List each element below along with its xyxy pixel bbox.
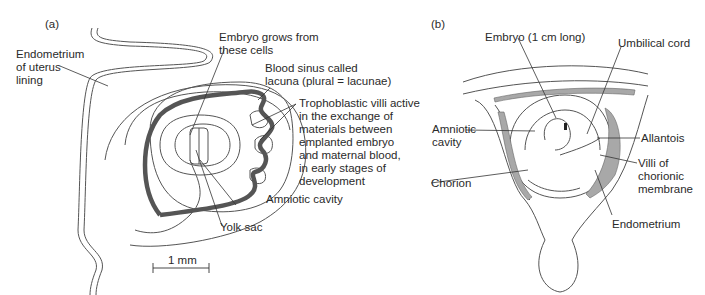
label-endometrium-a: Endometrium of uterus lining xyxy=(16,48,84,87)
panel-a-tag: (a) xyxy=(45,18,59,31)
label-trophoblastic-villi: Trophoblastic villi active in the exchan… xyxy=(299,97,420,188)
label-yolk-sac: Yolk sac xyxy=(220,221,262,234)
label-blood-sinus: Blood sinus called lacuna (plural = lacu… xyxy=(265,62,391,88)
label-amniotic-cavity-b: Amniotic cavity xyxy=(432,123,476,149)
trophoblast-line xyxy=(145,92,272,215)
scale-bar-label: 1 mm xyxy=(168,254,197,267)
label-allantois: Allantois xyxy=(641,132,684,145)
label-embryo-b: Embryo (1 cm long) xyxy=(485,31,585,44)
label-chorion: Chorion xyxy=(431,177,471,190)
panel-b-tag: (b) xyxy=(431,18,445,31)
label-amniotic-cavity-a: Amniotic cavity xyxy=(266,193,343,206)
uterus-b xyxy=(463,66,648,292)
label-embryo-grows: Embryo grows from these cells xyxy=(219,31,319,57)
label-umbilical-cord: Umbilical cord xyxy=(618,37,690,50)
label-villi-chorionic: Villi of chorionic membrane xyxy=(638,157,693,196)
label-endometrium-b: Endometrium xyxy=(612,218,680,231)
